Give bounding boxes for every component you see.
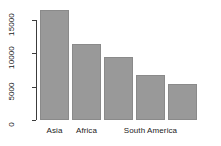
bar — [40, 10, 69, 120]
y-axis: 050001000015000 — [0, 0, 40, 146]
y-axis-tick-label: 5000 — [12, 82, 21, 100]
bar — [136, 75, 165, 120]
y-axis-tick-mark — [32, 20, 36, 21]
y-axis-tick-label: 15000 — [12, 13, 21, 36]
plot-area — [40, 0, 221, 146]
y-axis-line — [36, 20, 37, 120]
y-axis-tick-label-text: 5000 — [7, 82, 16, 100]
bar — [168, 84, 197, 120]
y-axis-tick-label: 0 — [12, 122, 21, 127]
bar — [104, 57, 133, 120]
y-axis-tick-mark — [32, 120, 36, 121]
x-axis-tick-label: South America — [124, 126, 177, 135]
y-axis-tick-label-text: 0 — [7, 122, 16, 127]
y-axis-tick-label-text: 10000 — [7, 46, 16, 69]
x-axis-tick-label: Asia — [47, 126, 63, 135]
bar — [72, 44, 101, 120]
y-axis-tick-label-text: 15000 — [7, 13, 16, 36]
barplot-figure: 050001000015000 AsiaAfricaSouth America — [0, 0, 221, 146]
y-axis-tick-mark — [32, 87, 36, 88]
x-axis-tick-label: Africa — [76, 126, 97, 135]
y-axis-tick-mark — [32, 53, 36, 54]
y-axis-tick-label: 10000 — [12, 46, 21, 69]
